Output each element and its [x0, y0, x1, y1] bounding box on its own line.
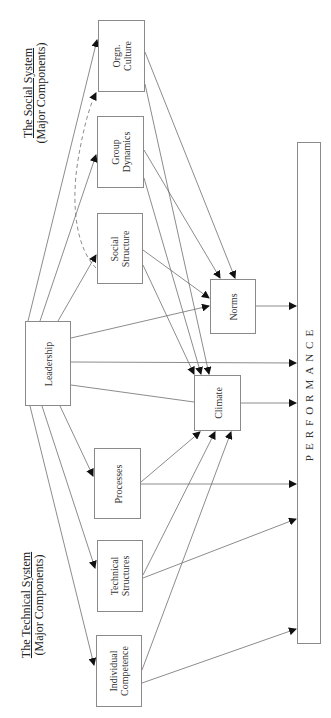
- node-label: Dynamics: [121, 132, 132, 173]
- node-label: Structure: [120, 230, 131, 267]
- node-label: Technical: [109, 556, 120, 597]
- node-technical-structures: TechnicalStructures: [97, 540, 143, 612]
- social-system-title: The Social System (Major Components): [22, 8, 48, 178]
- node-performance: PERFORMANCE: [297, 142, 321, 644]
- node-label: Structures: [120, 556, 131, 597]
- node-label: Group: [110, 132, 121, 173]
- node-label: Competence: [119, 646, 130, 696]
- technical-system-title: The Technical System (Major Components): [20, 505, 46, 705]
- edge-individual-competence-performance: [142, 629, 296, 683]
- node-label: Social: [109, 230, 120, 267]
- edge-social-structure-norms: [143, 250, 209, 298]
- edge-leadership-climate: [71, 385, 194, 402]
- node-label: Individual: [108, 646, 119, 696]
- node-leadership: Leadership: [25, 321, 71, 406]
- edge-leadership-social-structure: [58, 255, 96, 321]
- technical-system-subtitle: (Major Components): [33, 505, 46, 705]
- node-label: Leadership: [43, 341, 54, 385]
- edge-processes-climate: [141, 432, 200, 482]
- edge-leadership-processes: [60, 406, 93, 476]
- node-label: Orgn.: [111, 41, 122, 71]
- edge-social-structure-orgn-culture-dashed: [75, 93, 96, 268]
- edge-orgn-culture-norms: [145, 52, 235, 278]
- node-group-dynamics: GroupDynamics: [97, 116, 144, 188]
- node-label: PERFORMANCE: [304, 325, 315, 461]
- node-orgn-culture: Orgn.Culture: [98, 20, 145, 92]
- node-climate: Climate: [194, 375, 241, 431]
- node-label: Processes: [112, 464, 123, 503]
- node-label: Climate: [212, 387, 223, 419]
- edge-leadership-norms: [71, 306, 209, 338]
- node-label: Norms: [228, 293, 239, 320]
- node-individual-competence: IndividualCompetence: [96, 635, 142, 707]
- social-system-subtitle: (Major Components): [35, 8, 48, 178]
- node-processes: Processes: [94, 448, 141, 519]
- edge-orgn-culture-climate: [145, 84, 209, 374]
- node-label: Culture: [122, 41, 133, 71]
- node-norms: Norms: [210, 279, 256, 334]
- edge-technical-structures-performance: [143, 519, 296, 578]
- edge-leadership-performance: [71, 362, 296, 363]
- node-social-structure: SocialStructure: [97, 213, 143, 284]
